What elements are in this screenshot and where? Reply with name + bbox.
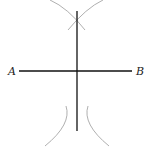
bottom-right-arc bbox=[87, 106, 109, 146]
bottom-left-arc bbox=[45, 106, 67, 146]
diagram-canvas: A B bbox=[0, 0, 154, 147]
point-a-label: A bbox=[7, 65, 16, 78]
point-b-label: B bbox=[135, 65, 144, 78]
top-right-arc bbox=[68, 0, 103, 30]
top-left-arc bbox=[50, 0, 85, 30]
